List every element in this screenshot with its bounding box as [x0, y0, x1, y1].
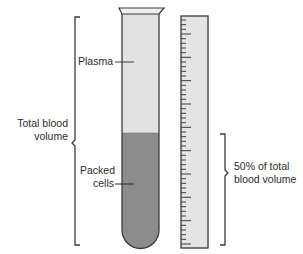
fifty-percent-line1: 50% of total	[234, 160, 296, 173]
fifty-percent-line2: blood volume	[234, 173, 296, 186]
total-blood-volume-label: Total blood volume	[2, 117, 68, 142]
total-volume-bracket	[72, 17, 80, 245]
packed-cells-label-line2: cells	[80, 177, 114, 190]
packed-cells-label-line1: Packed	[80, 164, 114, 177]
fifty-percent-label: 50% of total blood volume	[234, 160, 296, 185]
plasma-label: Plasma	[78, 55, 113, 68]
total-blood-volume-line2: volume	[2, 130, 68, 143]
graduated-ruler	[181, 16, 208, 248]
packed-cells-label: Packed cells	[80, 164, 114, 189]
plasma-layer	[122, 14, 159, 133]
packed-cells-layer	[122, 133, 159, 249]
fifty-percent-bracket	[220, 134, 228, 245]
test-tube	[119, 8, 164, 249]
total-blood-volume-line1: Total blood	[2, 117, 68, 130]
tube-lip	[119, 8, 164, 14]
